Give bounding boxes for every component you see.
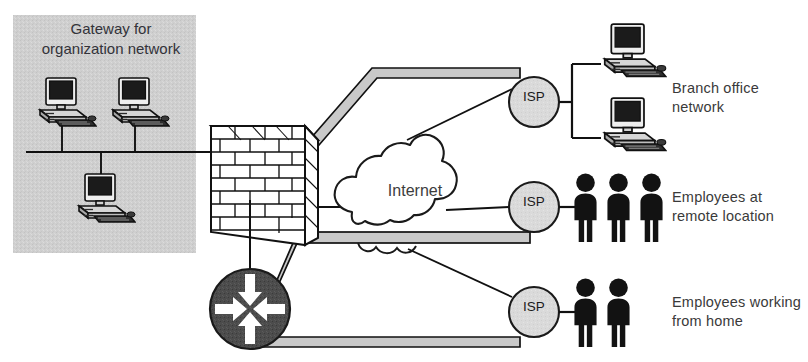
branch-computer-1	[605, 24, 666, 76]
router-icon	[210, 269, 290, 349]
network-diagram: Gateway for organization network Interne…	[0, 0, 808, 362]
branch-computer-2	[605, 98, 666, 150]
remote-employee-1	[574, 173, 596, 242]
remote-employee-2	[607, 173, 629, 242]
branch-office-network-label: Branch office network	[672, 79, 759, 117]
remote-employee-3	[640, 173, 662, 242]
employees-working-from-home-label: Employees working from home	[672, 293, 801, 331]
firewall-brick-wall	[211, 126, 318, 245]
internet-cloud-label: Internet	[355, 182, 475, 200]
employees-remote-location-label: Employees at remote location	[672, 188, 774, 226]
isp-top-label: ISP	[512, 89, 556, 104]
trunk-lower	[248, 232, 520, 347]
home-employee-1	[574, 278, 596, 347]
isp-bottom-label: ISP	[512, 299, 556, 314]
trunk-middle	[300, 232, 530, 243]
isp-middle-label: ISP	[512, 194, 556, 209]
home-employee-2	[607, 278, 629, 347]
trunk-upper	[304, 68, 520, 152]
gateway-zone-caption: Gateway for organization network	[16, 19, 206, 59]
